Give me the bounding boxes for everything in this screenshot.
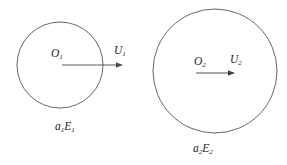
- bubble-1-center-label: O1: [51, 48, 63, 60]
- bubble-1-property-label: a1E1: [55, 121, 75, 133]
- bubble-2-outline: [153, 9, 277, 133]
- bubble-2-radius-subscript: 2: [199, 148, 203, 156]
- bubble-2-radius-symbol: a: [193, 142, 199, 154]
- bubble-1-velocity-label: U1: [114, 45, 126, 57]
- bubble-2-center-label: O2: [194, 56, 206, 68]
- bubble-1-radius-subscript: 1: [61, 126, 65, 134]
- figure-canvas: O1 U1 a1E1 O2 U2 a2E2: [0, 0, 287, 165]
- bubble-2-property-label: a2E2: [193, 143, 213, 155]
- bubble-1-center-label-subscript: 1: [59, 53, 63, 61]
- bubble-2-field-subscript: 2: [209, 148, 213, 156]
- bubble-2-velocity-label: U2: [230, 54, 242, 66]
- bubble-2-center-label-subscript: 2: [202, 61, 206, 69]
- bubble-1-velocity-label-subscript: 1: [122, 50, 126, 58]
- bubble-2-velocity-label-subscript: 2: [238, 59, 242, 67]
- bubble-1-radius-symbol: a: [55, 120, 61, 132]
- bubble-1-field-subscript: 1: [71, 126, 75, 134]
- diagram-svg: [0, 0, 287, 165]
